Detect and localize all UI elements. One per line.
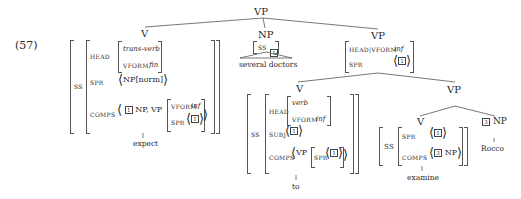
verb-examine-label: V: [417, 116, 424, 127]
spr-value: ⟨NP[norm]⟩: [118, 75, 168, 85]
to-comps-vp: VP: [296, 148, 307, 157]
right-angle: ⟩: [298, 123, 303, 138]
examine-ss-attr: SS: [384, 143, 394, 151]
head-left-bracket: [118, 41, 122, 73]
comps-right-angle: ⟩: [203, 110, 208, 120]
right-angle: ⟩: [457, 145, 462, 160]
to-head-left-bracket: [287, 96, 291, 126]
to-ss-attr: SS: [251, 131, 260, 138]
subj-value: ⟨1⟩: [285, 126, 303, 136]
spr-np-norm: NP[norm]: [123, 75, 163, 84]
to-ss-right-bracket: [355, 94, 359, 174]
to-head-attr: HEAD: [269, 108, 289, 115]
tag-box: 1: [290, 127, 298, 135]
head-attr: HEAD: [90, 53, 110, 60]
root-vp-label: VP: [254, 6, 268, 17]
np-subject-label: NP: [258, 29, 273, 40]
word-several-doctors: several doctors: [239, 60, 297, 69]
np-object-label: 3 NP: [482, 116, 507, 126]
vp-inf-spr-attr: SPR: [349, 61, 363, 68]
to-inner-right-bracket: [350, 94, 354, 174]
subj-attr: SUBJ: [269, 131, 286, 138]
vp-inf-spr-value: ⟨1⟩: [393, 56, 411, 66]
to-vform-value: inf: [316, 115, 325, 123]
word-rocco: Rocco: [481, 144, 504, 153]
np-object-cat: NP: [493, 116, 507, 126]
to-head-type: verb: [292, 99, 308, 107]
head-vform-value: inf: [394, 45, 403, 53]
to-comps-right-angle: ⟩: [343, 150, 348, 160]
tag-box: 1: [330, 149, 338, 157]
verb-expect-label: V: [141, 28, 148, 39]
head-vform-attr: HEAD|VFORM: [349, 46, 397, 53]
tag-box: 1: [191, 115, 199, 123]
spr-attr: SPR: [90, 79, 104, 86]
comps-vp-vform-value: inf: [191, 102, 200, 110]
inner-right-bracket: [211, 40, 215, 134]
comps-list: ⟨ 1 NP, VP: [117, 105, 162, 115]
vp-inf-label: VP: [371, 30, 385, 41]
tag-box: 1: [125, 106, 133, 114]
example-number: (57): [15, 39, 38, 52]
np-left-bracket: [253, 41, 257, 54]
examine-ss-left-bracket: [379, 127, 383, 166]
comps-vp: VP: [151, 105, 162, 114]
tag-box: 3: [434, 149, 442, 157]
right-angle: ⟩: [442, 125, 447, 140]
head-type: trans-verb: [123, 45, 160, 53]
np-ss-attr: SS: [258, 44, 267, 51]
examine-spr-value: ⟨1⟩: [429, 128, 447, 138]
tag-box: 1: [270, 49, 278, 57]
comps-vp-spr-attr: SPR: [171, 119, 185, 126]
np-tag: 1: [270, 42, 278, 61]
word-examine: examine: [407, 173, 439, 182]
to-comps-vp-spr-value: ⟨1⟩: [325, 148, 343, 158]
to-comps-list: ⟨VP: [291, 148, 307, 158]
examine-spr-attr: SPR: [402, 133, 416, 140]
tag-box: 1: [398, 57, 406, 65]
left-angle: ⟨: [117, 102, 122, 117]
to-head-right-bracket: [327, 96, 331, 126]
examine-comps-attr: COMPS: [402, 154, 427, 161]
vp-lower-label: VP: [447, 84, 461, 95]
tag-box: 3: [482, 118, 490, 126]
comps-attr: COMPS: [90, 111, 115, 118]
right-angle: ⟩: [406, 53, 411, 68]
tag-box: 1: [434, 129, 442, 137]
vform-value: fin: [149, 61, 158, 69]
to-vform-attr: VFORM: [292, 116, 318, 123]
comps-vp-spr-value: ⟨1⟩: [186, 114, 204, 124]
word-expect: expect: [133, 139, 158, 148]
ss-attr: SS: [74, 83, 83, 90]
word-to: to: [292, 182, 300, 191]
comps-np: NP,: [135, 105, 148, 114]
ss-right-bracket: [216, 40, 220, 134]
vform-attr: VFORM: [123, 62, 149, 69]
examine-comps-np: NP: [445, 148, 457, 157]
examine-ss-right-bracket: [464, 127, 468, 166]
right-angle: ⟩: [163, 72, 168, 87]
examine-comps-value: ⟨3 NP⟩: [429, 148, 462, 158]
verb-to-label: V: [296, 83, 303, 94]
